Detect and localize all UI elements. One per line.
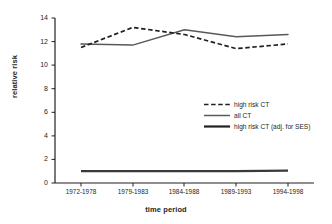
- y-tick-label: 0: [26, 179, 48, 187]
- legend-label: high risk CT: [230, 99, 269, 110]
- y-tick-label: 6: [26, 108, 48, 116]
- series-line-all-ct: [81, 30, 288, 45]
- dashed-line-key-icon: [204, 99, 230, 110]
- series-line-high-risk-ct-adj-ses: [81, 171, 288, 172]
- series-line-high-risk-ct: [81, 27, 288, 48]
- legend-item-high-risk-ct-adj-ses: high risk CT (adj. for SES): [204, 121, 332, 132]
- x-axis-tick-labels: 1972-1978 1979-1983 1984-1988 1989-1993 …: [55, 188, 314, 200]
- y-tick-label: 10: [26, 61, 48, 69]
- relative-risk-line-chart: 0 2 4 6 8 10 12 14 1972-1978 1979-1983 1…: [0, 0, 332, 224]
- y-tick-label: 8: [26, 85, 48, 93]
- y-axis-tick-labels: 0 2 4 6 8 10 12 14: [26, 18, 48, 183]
- thick-line-key-icon: [204, 121, 230, 132]
- y-tick-label: 14: [26, 14, 48, 22]
- thin-line-key-icon: [204, 110, 230, 121]
- chart-legend: high risk CT all CT high risk CT (adj. f…: [204, 99, 332, 132]
- legend-item-high-risk-ct: high risk CT: [204, 99, 332, 110]
- x-tick-label: 1994-1998: [253, 188, 323, 196]
- y-tick-label: 4: [26, 132, 48, 140]
- y-axis-title: relative risk: [10, 17, 19, 137]
- legend-label: all CT: [230, 110, 251, 121]
- legend-label: high risk CT (adj. for SES): [230, 121, 310, 132]
- legend-item-all-ct: all CT: [204, 110, 332, 121]
- x-axis-title: time period: [0, 205, 332, 214]
- y-tick-label: 2: [26, 155, 48, 163]
- y-tick-label: 12: [26, 38, 48, 46]
